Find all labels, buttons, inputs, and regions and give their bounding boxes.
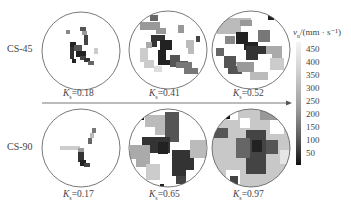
- k-label: Ks=0.17: [63, 189, 94, 201]
- colorbar-tick: 350: [306, 70, 320, 80]
- colorbar-unit: /(mm · s⁻¹): [300, 27, 341, 37]
- colorbar-tick: 450: [306, 44, 320, 54]
- k-value: =0.97: [242, 189, 264, 199]
- colorbar-tick: 50: [306, 148, 315, 158]
- colorbar: [296, 42, 301, 165]
- arrow-head-icon: [286, 101, 292, 106]
- colorbar-tick: 150: [306, 122, 320, 132]
- colorbar-tick: 300: [306, 83, 320, 93]
- panel-cs45-k041: [140, 15, 200, 74]
- k-value: =0.17: [72, 189, 94, 199]
- row-label-cs90: CS-90: [7, 141, 33, 152]
- k-label: Ks=0.52: [233, 88, 264, 100]
- k-value: =0.52: [242, 88, 264, 98]
- panel-cs45-k018: [66, 27, 98, 65]
- colorbar-tick: 200: [306, 109, 320, 119]
- row-label-cs45: CS-45: [7, 43, 33, 54]
- colorbar-title: vn/(mm · s⁻¹): [293, 27, 341, 39]
- colorbar-tick: 400: [306, 57, 320, 67]
- panel-cs45-k052: [215, 14, 284, 80]
- k-value: =0.18: [72, 88, 94, 98]
- k-label: Ks=0.65: [149, 189, 180, 201]
- k-value: =0.65: [158, 189, 180, 199]
- colorbar-tick: 250: [306, 96, 320, 106]
- k-value: =0.41: [158, 88, 180, 98]
- panel-cs90-k017: [60, 128, 96, 167]
- k-label: Ks=0.18: [63, 88, 94, 100]
- k-label: Ks=0.97: [233, 189, 264, 201]
- k-label: Ks=0.41: [149, 88, 180, 100]
- colorbar-tick: 100: [306, 135, 320, 145]
